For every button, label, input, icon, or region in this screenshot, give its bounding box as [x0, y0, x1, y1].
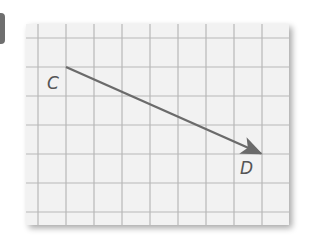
point-label-c: C: [47, 73, 59, 93]
grid-paper: [26, 24, 289, 225]
point-label-d: D: [240, 158, 253, 178]
grid-diagram: C D: [0, 0, 322, 238]
